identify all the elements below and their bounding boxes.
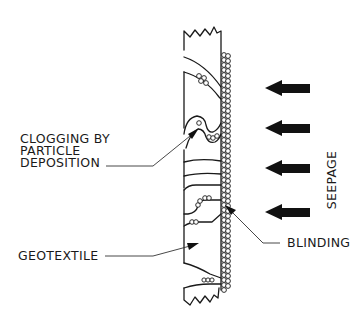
arrow-left-icon xyxy=(265,160,310,176)
blinding-label: BLINDING xyxy=(287,235,350,250)
seepage-arrows xyxy=(265,80,310,220)
arrow-left-icon xyxy=(265,80,310,96)
seepage-label: SEEPAGE xyxy=(324,151,339,209)
soil-particles-column xyxy=(222,53,231,293)
geotextile-label: GEOTEXTILE xyxy=(18,248,98,263)
clogging-particles xyxy=(190,74,220,283)
arrow-left-icon xyxy=(265,204,310,220)
geotextile-strip xyxy=(184,27,221,305)
leader-arrowhead-icon xyxy=(187,243,199,250)
geotextile-clogging-diagram: SEEPAGE CLOGGING BY PARTICLE DEPOSITION … xyxy=(0,0,364,322)
clogging-label-line3: DEPOSITION xyxy=(20,155,100,170)
geotextile-callout: GEOTEXTILE xyxy=(18,243,199,263)
clogging-callout: CLOGGING BY PARTICLE DEPOSITION xyxy=(20,128,199,170)
arrow-left-icon xyxy=(265,120,310,136)
